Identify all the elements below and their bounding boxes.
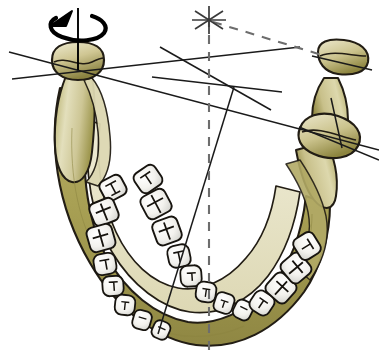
right-coronoid-process (318, 40, 368, 75)
tooth-left-premolar-1 (102, 275, 124, 296)
tooth-right-canine (195, 281, 218, 304)
tooth-left-premolar-2 (92, 252, 117, 277)
mandible-figure: Mandible superior view with rotation axi… (0, 0, 379, 353)
tooth-left-canine (114, 294, 136, 316)
mandible-illustration (0, 0, 379, 353)
